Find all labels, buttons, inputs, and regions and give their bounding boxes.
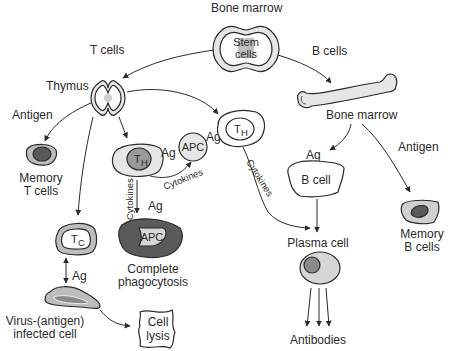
immune-system-diagram: Bone marrow Stem cells T cells B cells T… — [0, 0, 452, 351]
infected-cell-node — [45, 287, 100, 309]
plasma-cell-node — [300, 252, 340, 284]
cytotoxic-t-cell: T C — [56, 223, 97, 254]
cell-lysis-line2: lysis — [146, 329, 169, 343]
th-right-sub: H — [241, 127, 248, 138]
cytokines-vertical-label: Cytokines — [124, 178, 135, 220]
arrow-antibody-3 — [326, 288, 329, 326]
helper-t-cell-left: T H — [112, 144, 163, 176]
ag-bcell-label: Ag — [306, 148, 321, 162]
stem-cells-node: Stem cells — [213, 26, 279, 71]
memory-b-cells-node — [401, 200, 439, 223]
arrow-thymus-to-th — [119, 117, 127, 138]
th-left-main: T — [134, 153, 141, 165]
infected-cell-line2: infected cell — [13, 327, 76, 341]
cytokines-th-plasma-label: Cytokines — [244, 157, 276, 198]
thymus-node — [91, 81, 125, 116]
antigen-right-label: Antigen — [398, 140, 439, 154]
apc-node: APC — [179, 133, 207, 161]
bone-marrow-top-label: Bone marrow — [211, 1, 283, 15]
apc-label: APC — [182, 141, 205, 153]
arrow-infected-to-lysis — [100, 310, 130, 326]
tc-main: T — [71, 233, 78, 245]
arrow-antibody-1 — [307, 288, 311, 326]
b-cells-label: B cells — [312, 44, 347, 58]
helper-t-cell-right: T H — [218, 111, 265, 147]
complete-phago-line2: phagocytosis — [118, 275, 188, 289]
ag-vertical-label: Ag — [148, 199, 163, 213]
th-right-main: T — [234, 123, 241, 135]
b-cell-node: B cell — [288, 161, 344, 197]
memory-t-cells-node — [26, 144, 56, 165]
phago-apc-label: APC — [141, 231, 164, 243]
infected-cell-line1: Virus-(antigen) — [6, 314, 84, 328]
memory-t-label-line1: Memory — [19, 171, 62, 185]
arrow-thymus-to-tc — [78, 117, 93, 215]
arrow-bone-to-bcell — [330, 124, 351, 150]
memory-t-label-line2: T cells — [24, 184, 58, 198]
bone-marrow-right-label: Bone marrow — [326, 108, 398, 122]
arrow-stem-to-thymus — [123, 50, 214, 78]
th-left-sub: H — [141, 157, 148, 168]
cell-lysis-line1: Cell — [148, 315, 169, 329]
ag-th-apc-label: Ag — [161, 146, 176, 160]
t-cells-label: T cells — [90, 43, 124, 57]
tc-sub: C — [78, 237, 85, 248]
antigen-left-label: Antigen — [12, 108, 53, 122]
plasma-cell-label: Plasma cell — [287, 236, 348, 250]
bone-node — [298, 74, 397, 108]
antibodies-label: Antibodies — [290, 333, 346, 347]
stem-cells-label-line1: Stem — [233, 36, 259, 48]
arrow-stem-to-bone — [278, 55, 331, 83]
complete-phago-line1: Complete — [127, 262, 179, 276]
ag-tc-label: Ag — [72, 269, 87, 283]
b-cell-label: B cell — [301, 173, 330, 187]
memory-b-label-line1: Memory — [400, 227, 443, 241]
memory-b-label-line2: B cells — [404, 240, 439, 254]
phagocytosis-apc-node: APC — [119, 219, 183, 258]
arrow-thymus-to-th-right — [127, 90, 218, 114]
thymus-label: Thymus — [46, 79, 89, 93]
arrow-bone-to-memory-b — [362, 124, 410, 192]
stem-cells-label-line2: cells — [235, 48, 258, 60]
